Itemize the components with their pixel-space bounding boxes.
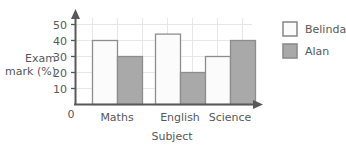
x-category-label-science: Science	[209, 111, 252, 124]
bar-maths-belinda	[93, 41, 118, 105]
y-axis-title-line2: mark (%)	[5, 65, 56, 78]
y-tick-label-10: 10	[53, 83, 67, 96]
y-tick-label-40: 40	[53, 35, 67, 48]
y-tick-label-50: 50	[53, 19, 67, 32]
bar-chart-figure: 50 40 30 20 10 0 Exam mark (%) Maths Eng…	[0, 0, 346, 153]
bar-english-belinda	[156, 34, 181, 104]
y-axis-title-line1: Exam	[25, 52, 56, 65]
legend-item-belinda: Belinda	[283, 22, 346, 36]
y-tick-label-0: 0	[68, 108, 75, 121]
x-category-label-maths: Maths	[100, 111, 134, 124]
bar-science-belinda	[206, 57, 231, 105]
bar-english-alan	[181, 73, 206, 105]
legend-label-alan: Alan	[305, 45, 329, 58]
x-category-label-english: English	[160, 111, 200, 124]
x-axis-title: Subject	[151, 130, 193, 143]
legend-label-belinda: Belinda	[305, 23, 346, 36]
legend-item-alan: Alan	[283, 44, 329, 58]
bar-maths-alan	[118, 57, 143, 105]
legend-swatch-alan	[283, 44, 297, 58]
legend-swatch-belinda	[283, 22, 297, 36]
chart-svg: 50 40 30 20 10 0 Exam mark (%) Maths Eng…	[0, 0, 346, 153]
bar-science-alan	[231, 41, 256, 105]
